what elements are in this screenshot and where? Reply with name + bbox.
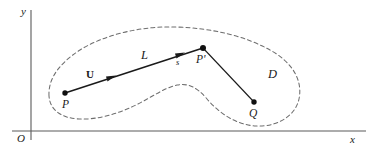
figure-container: y O x P P' Q L U s D [0, 0, 370, 156]
arrowhead-unit-vector [106, 76, 116, 82]
x-axis-label: x [350, 134, 355, 145]
axes-group [12, 10, 366, 140]
segment-label-L: L [141, 49, 148, 62]
figure-canvas [0, 0, 370, 156]
point-marker-Pprime [200, 45, 206, 51]
y-axis-label: y [21, 6, 26, 17]
region-label-D: D [268, 68, 277, 81]
arclength-label-s: s [176, 58, 179, 67]
point-label-Q: Q [249, 108, 257, 120]
point-marker-P [62, 90, 67, 95]
point-label-Pprime: P' [196, 54, 205, 66]
point-label-P: P [62, 99, 69, 111]
origin-label: O [17, 133, 25, 144]
segment-PprimeQ [203, 48, 254, 102]
point-marker-Q [251, 99, 256, 104]
unit-vector-label-U: U [86, 69, 94, 80]
